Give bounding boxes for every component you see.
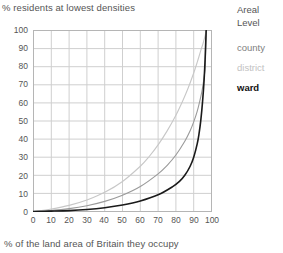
- y-tick-label: 20: [0, 172, 28, 181]
- legend-title-line-2: Level: [237, 16, 283, 29]
- x-axis-title: % of the land area of Britain they occup…: [4, 238, 179, 249]
- y-tick-label: 100: [0, 26, 28, 35]
- legend: Areal Level county district ward: [237, 3, 283, 98]
- legend-spacer: [237, 29, 283, 38]
- x-tick-label: 100: [200, 216, 224, 225]
- y-tick-label: 60: [0, 99, 28, 108]
- grid-lines: [34, 31, 212, 212]
- y-tick-label: 90: [0, 44, 28, 53]
- y-tick-label: 30: [0, 153, 28, 162]
- legend-item-county[interactable]: county: [237, 38, 283, 58]
- y-tick-label: 70: [0, 80, 28, 89]
- legend-item-ward[interactable]: ward: [237, 78, 283, 98]
- legend-title-line-1: Areal: [237, 3, 283, 16]
- y-tick-label: 10: [0, 190, 28, 199]
- legend-item-district[interactable]: district: [237, 58, 283, 78]
- y-tick-label: 40: [0, 135, 28, 144]
- plot-area: [33, 30, 212, 212]
- y-tick-label: 50: [0, 117, 28, 126]
- chart-svg: [33, 30, 212, 212]
- y-tick-label: 80: [0, 62, 28, 71]
- y-axis-title: % residents at lowest densities: [2, 2, 135, 13]
